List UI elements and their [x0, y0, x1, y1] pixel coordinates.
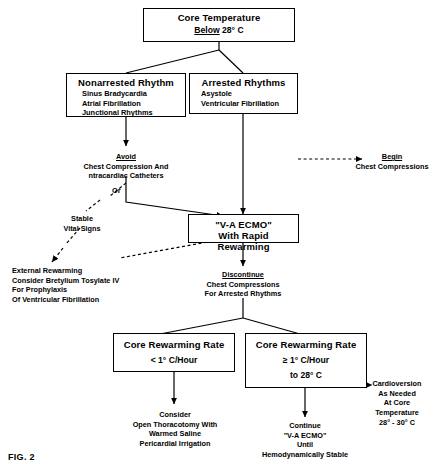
annotation-or: Or — [112, 186, 121, 195]
figure-caption: FIG. 2 — [8, 452, 35, 462]
annotation-cardioversion-line-1: Cardioversion — [358, 379, 436, 389]
annotation-cardioversion-line-3: At Core — [358, 398, 436, 408]
annotation-continue-ecmo: Continue "V-A ECMO" Until Hemodynamicall… — [235, 421, 375, 460]
list-item: Asystole — [201, 89, 292, 99]
node-core-temperature: Core Temperature Below 28° C — [143, 8, 295, 42]
annotation-thoracotomy-line-1: Consider — [104, 410, 246, 420]
node-nonarrested-rhythm-title: Nonarrested Rhythm — [72, 77, 180, 88]
annotation-begin-compressions: Begin Chest Compressions — [348, 152, 436, 171]
node-va-ecmo-title: "V-A ECMO" — [194, 219, 293, 230]
annotation-open-thoracotomy: Consider Open Thoracotomy With Warmed Sa… — [104, 410, 246, 449]
annotation-avoid-line-1: Chest Compression And — [57, 162, 195, 172]
annotation-external-rewarming-line-4: Of Ventricular Fibrillation — [12, 295, 142, 305]
annotation-cardioversion-line-4: Temperature — [358, 408, 436, 418]
annotation-begin-line-1: Chest Compressions — [348, 162, 436, 172]
node-core-rewarming-rate-slow: Core Rewarming Rate < 1° C/Hour — [113, 333, 235, 372]
node-core-temperature-title: Core Temperature — [149, 12, 289, 23]
node-nonarrested-rhythm-items: Sinus Bradycardia Atrial Fibrillation Ju… — [82, 89, 180, 118]
flowchart-canvas: Core Temperature Below 28° C Nonarrested… — [0, 0, 438, 464]
annotation-stable-line-2: Vital Signs — [46, 224, 118, 234]
node-arrested-rhythms: Arrested Rhythms Asystole Ventricular Fi… — [189, 73, 298, 114]
annotation-continue-line-1: Continue — [235, 421, 375, 431]
annotation-thoracotomy-line-4: Pericardial Irrigation — [104, 439, 246, 449]
list-item: Junctional Rhythms — [82, 108, 180, 118]
annotation-external-rewarming: External Rewarming Consider Bretylium To… — [12, 266, 142, 305]
annotation-begin-heading: Begin — [348, 152, 436, 162]
annotation-discontinue-line-2: For Arrested Rhythms — [180, 289, 306, 299]
node-rate-fast-value: ≥ 1° C/Hour — [251, 355, 361, 365]
node-arrested-rhythms-items: Asystole Ventricular Fibrillation — [201, 89, 292, 108]
node-arrested-rhythms-title: Arrested Rhythms — [195, 77, 292, 88]
node-nonarrested-rhythm: Nonarrested Rhythm Sinus Bradycardia Atr… — [66, 73, 186, 117]
annotation-stable-vital-signs: Stable Vital Signs — [46, 214, 118, 233]
annotation-external-rewarming-line-1: External Rewarming — [12, 266, 142, 276]
node-core-temperature-below-label: Below — [194, 25, 219, 35]
annotation-discontinue-heading: Discontinue — [180, 270, 306, 280]
node-va-ecmo-subtitle: With Rapid Rewarming — [194, 230, 293, 252]
annotation-cardioversion: Cardioversion As Needed At Core Temperat… — [358, 379, 436, 427]
node-core-rewarming-rate-fast: Core Rewarming Rate ≥ 1° C/Hour to 28° C — [245, 333, 367, 388]
annotation-thoracotomy-line-3: Warmed Saline — [104, 429, 246, 439]
node-core-temperature-value: 28° C — [220, 25, 244, 35]
annotation-continue-line-4: Hemodynamically Stable — [235, 450, 375, 460]
annotation-external-rewarming-line-2: Consider Bretylium Tosylate IV — [12, 276, 142, 286]
node-rate-fast-target: to 28° C — [251, 370, 361, 380]
annotation-continue-line-3: Until — [235, 440, 375, 450]
node-rate-slow-value: < 1° C/Hour — [119, 355, 229, 365]
annotation-discontinue: Discontinue Chest Compressions For Arres… — [180, 270, 306, 299]
annotation-continue-line-2: "V-A ECMO" — [235, 431, 375, 441]
list-item: Ventricular Fibrillation — [201, 99, 292, 109]
annotation-external-rewarming-line-3: For Prophylaxis — [12, 285, 142, 295]
node-va-ecmo: "V-A ECMO" With Rapid Rewarming — [188, 214, 299, 243]
list-item: Atrial Fibrillation — [82, 99, 180, 109]
annotation-discontinue-line-1: Chest Compressions — [180, 280, 306, 290]
annotation-avoid-heading: Avoid — [57, 152, 195, 162]
node-core-temperature-threshold: Below 28° C — [149, 25, 289, 35]
annotation-cardioversion-line-2: As Needed — [358, 389, 436, 399]
annotation-avoid-line-2: ntracardiac Catheters — [57, 171, 195, 181]
node-rate-fast-title: Core Rewarming Rate — [251, 339, 361, 350]
annotation-thoracotomy-line-2: Open Thoracotomy With — [104, 420, 246, 430]
list-item: Sinus Bradycardia — [82, 89, 180, 99]
annotation-avoid: Avoid Chest Compression And ntracardiac … — [57, 152, 195, 181]
node-rate-slow-title: Core Rewarming Rate — [119, 339, 229, 350]
annotation-stable-line-1: Stable — [46, 214, 118, 224]
